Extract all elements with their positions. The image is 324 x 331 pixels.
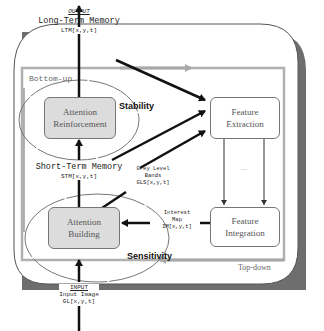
feature-integration-line2: Integration [225, 227, 265, 239]
output-heading: OUTPUT [59, 8, 99, 15]
attention-building-node: Attention Building [48, 207, 120, 249]
stm-var: STM[x,y,t] [57, 173, 101, 180]
gls-line2: Bands [128, 172, 178, 179]
attention-reinforcement-line2: Reinforcement [53, 118, 106, 130]
attention-building-line1: Attention [67, 216, 101, 228]
attention-building-line2: Building [67, 228, 101, 240]
feature-integration-node: Feature Integration [210, 207, 280, 247]
feature-extraction-node: Feature Extraction [210, 97, 280, 139]
top-down-label: Top-down [238, 263, 271, 272]
input-title: Input Image [49, 291, 109, 298]
feature-integration-line1: Feature [225, 215, 265, 227]
input-var: GL[x,y,t] [54, 298, 104, 305]
stm-title: Short-Term Memory [32, 162, 126, 172]
ellipsis-label: ... [236, 163, 252, 172]
input-heading: INPUT [59, 284, 99, 291]
interest-map-var: IM[x,y,t] [154, 223, 200, 230]
feature-extraction-line2: Extraction [226, 118, 264, 130]
ltm-title: Long-Term Memory [34, 16, 124, 26]
feature-extraction-line1: Feature [226, 106, 264, 118]
attention-reinforcement-line1: Attention [53, 106, 106, 118]
interest-map-line1: Interest [154, 209, 200, 216]
gls-var: GLS[x,y,t] [128, 179, 178, 186]
ltm-var: LTM[x,y,t] [49, 27, 109, 34]
bottom-up-label: Bottom-up [29, 74, 72, 83]
attention-reinforcement-node: Attention Reinforcement [44, 97, 116, 139]
sensitivity-label: Sensitivity [127, 251, 172, 261]
stability-label: Stability [119, 101, 154, 111]
gls-line1: Grey Level [128, 165, 178, 172]
interest-map-line2: Map [154, 216, 200, 223]
